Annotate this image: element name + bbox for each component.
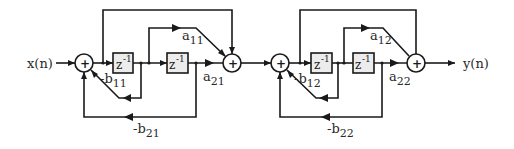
plus-icon: + [228,57,238,71]
delay-exponent: -1 [362,54,371,64]
coef-a21: a21 [203,69,225,88]
section-2: + z -1 a12 -b12 z -1 a22 -b22 + [271,10,425,140]
section-1: + z -1 a11 -b11 z -1 a21 [75,10,241,140]
output-label: y(n) [462,56,489,71]
arrow-icon [123,94,131,102]
coef-b11: -b11 [100,71,127,90]
delay-exponent: -1 [176,54,185,64]
arrow-icon [319,94,328,102]
input-label: x(n) [27,56,53,71]
coef-b22: -b22 [327,121,354,140]
coef-b12: -b12 [294,71,321,90]
arrow-icon [390,59,399,67]
coef-a11: a11 [182,28,204,47]
arrow-icon [68,60,75,66]
delay-exponent: -1 [123,54,132,64]
plus-icon: + [412,57,422,71]
coef-b21: -b21 [133,121,160,140]
plus-icon: + [276,57,286,71]
delay-exponent: -1 [321,54,330,64]
arrow-icon [124,113,133,121]
delay-label: z [169,58,175,72]
arrow-icon [304,60,311,66]
arrow-icon [448,60,455,66]
arrow-icon [81,72,87,79]
arrow-icon [229,47,235,54]
delay-label: z [116,58,122,72]
arrow-icon [277,72,283,79]
coef-a12: a12 [370,28,392,47]
arrow-icon [264,60,271,66]
arrow-icon [160,60,167,66]
coef-a22: a22 [389,69,411,88]
plus-icon: + [80,57,90,71]
arrow-icon [205,59,214,67]
arrow-icon [106,60,113,66]
cascade-iir-filter-diagram: x(n) + z -1 a11 -b11 z [0,0,514,149]
delay-label: z [314,58,320,72]
arrow-icon [172,24,181,32]
arrow-icon [361,24,370,32]
delay-label: z [355,58,361,72]
arrow-icon [321,113,330,121]
